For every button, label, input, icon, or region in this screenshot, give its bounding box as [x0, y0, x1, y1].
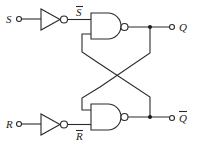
s-bar-label: S: [76, 6, 82, 18]
inverter-top-icon: [41, 9, 60, 30]
q-output-label: Q: [179, 21, 187, 33]
q-bar-output-terminal: [170, 116, 175, 121]
nand-top-icon: [91, 13, 121, 39]
s-input-label: S: [6, 13, 12, 25]
s-input-terminal: [17, 17, 22, 22]
nand-bottom-icon: [91, 104, 121, 130]
nand-bottom-bubble: [121, 114, 128, 121]
r-bar-label: R: [75, 130, 83, 142]
r-input-terminal: [17, 122, 22, 127]
inverter-bottom-icon: [41, 114, 60, 135]
r-input-label: R: [5, 118, 13, 130]
q-output-terminal: [170, 25, 175, 30]
sr-latch-diagram: S S Q Q R R: [0, 0, 199, 154]
q-bar-output-label: Q: [179, 112, 187, 124]
q-bar-junction-dot: [148, 115, 152, 119]
nand-top-bubble: [121, 24, 128, 31]
inverter-bottom-bubble: [61, 121, 68, 128]
inverter-top-bubble: [61, 16, 68, 23]
